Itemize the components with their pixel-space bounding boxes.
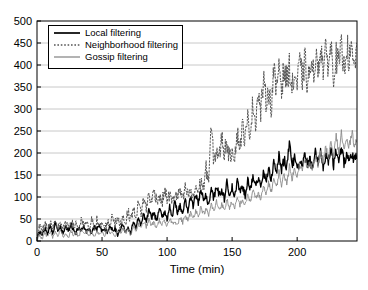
y-tick-label-350: 350 xyxy=(14,81,32,93)
x-axis-title: Time (min) xyxy=(170,263,225,275)
x-tick-label-0: 0 xyxy=(34,246,40,258)
x-tick-label-200: 200 xyxy=(288,246,306,258)
chart-legend: Local filteringNeighborhood filteringGos… xyxy=(49,26,183,69)
y-tick-label-100: 100 xyxy=(14,191,32,203)
y-tick-label-500: 500 xyxy=(14,15,32,27)
y-tick-label-150: 150 xyxy=(14,169,32,181)
y-tick-label-400: 400 xyxy=(14,59,32,71)
chart-figure: 050100150200 050100150200250300350400450… xyxy=(0,0,368,290)
legend-label-local-filtering: Local filtering xyxy=(85,27,141,38)
x-tick-label-150: 150 xyxy=(223,246,241,258)
x-tick-label-50: 50 xyxy=(96,246,108,258)
y-tick-label-450: 450 xyxy=(14,37,32,49)
x-tick-label-100: 100 xyxy=(158,246,176,258)
y-tick-label-50: 50 xyxy=(20,213,32,225)
y-tick-label-300: 300 xyxy=(14,103,32,115)
legend-label-neighborhood-filtering: Neighborhood filtering xyxy=(85,39,178,50)
y-tick-label-250: 250 xyxy=(14,125,32,137)
y-tick-label-0: 0 xyxy=(26,235,32,247)
line-chart: 050100150200 050100150200250300350400450… xyxy=(0,0,368,290)
y-tick-label-200: 200 xyxy=(14,147,32,159)
legend-label-gossip-filtering: Gossip filtering xyxy=(85,51,148,62)
